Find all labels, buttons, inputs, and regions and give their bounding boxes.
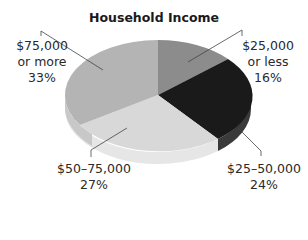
pie-top <box>65 40 253 151</box>
label-50-75k: $50–75,000 27% <box>52 161 136 193</box>
label-25k-or-less: $25,000 or less 16% <box>230 38 306 86</box>
label-75k-or-more: $75,000 or more 33% <box>4 38 80 86</box>
label-25-50k: $25–50,000 24% <box>222 161 306 193</box>
